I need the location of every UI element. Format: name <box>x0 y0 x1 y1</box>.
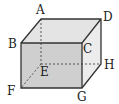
vertex-label-C: C <box>83 42 92 56</box>
vertex-label-H: H <box>104 58 114 72</box>
vertex-label-F: F <box>7 84 15 98</box>
cube-diagram: A D B C E H F G <box>0 0 119 104</box>
vertex-label-B: B <box>8 37 17 51</box>
vertex-label-E: E <box>40 65 49 79</box>
vertex-label-G: G <box>77 90 87 104</box>
front-face <box>21 43 82 88</box>
vertex-label-A: A <box>35 3 45 17</box>
cube-svg: A D B C E H F G <box>0 0 119 104</box>
vertex-label-D: D <box>103 10 113 24</box>
